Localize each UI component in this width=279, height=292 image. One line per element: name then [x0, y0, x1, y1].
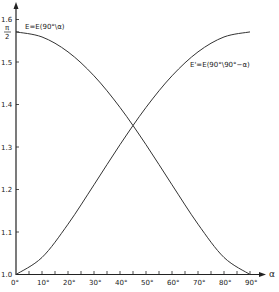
x-ticks: 0°10°20°30°40°50°60°70°80°90°: [11, 271, 257, 287]
y-tick-label: 1.0: [1, 271, 12, 279]
x-tick-label: 30°: [89, 279, 101, 287]
pi-over-2-denominator: 2: [5, 33, 9, 41]
x-axis-arrow-icon: [259, 272, 266, 277]
y-tick-label: 1.4: [1, 101, 13, 109]
x-tick-label: 50°: [141, 279, 153, 287]
x-tick-label: 80°: [219, 279, 231, 287]
y-tick-label: 1.5: [1, 59, 12, 67]
x-tick-label: 0°: [11, 279, 19, 287]
y-tick-label: 1.2: [1, 186, 12, 194]
x-tick-label: 60°: [167, 279, 179, 287]
y-tick-label: 1.6: [1, 16, 13, 24]
y-axis-arrow-icon: [14, 2, 19, 9]
x-tick-label: 90°: [245, 279, 257, 287]
x-tick-label: 40°: [115, 279, 127, 287]
curve-e-label: E=E(90°\α): [25, 23, 65, 31]
x-tick-label: 70°: [193, 279, 205, 287]
y-tick-label: 1.1: [1, 229, 12, 237]
chart: 1.01.11.21.31.41.51.6 0°10°20°30°40°50°6…: [0, 0, 279, 292]
curve-e-prime-label: E'=E(90°\90°−α): [190, 61, 250, 69]
x-axis-label: α: [269, 269, 275, 279]
x-tick-label: 20°: [63, 279, 75, 287]
y-tick-label: 1.3: [1, 144, 12, 152]
x-tick-label: 10°: [37, 279, 49, 287]
pi-over-2-numerator: π: [5, 24, 10, 32]
